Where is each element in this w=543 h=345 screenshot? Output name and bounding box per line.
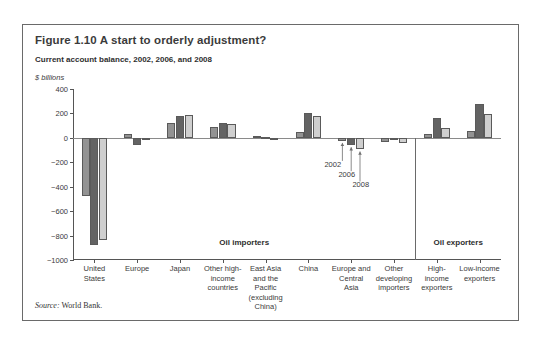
y-tick-mark xyxy=(70,113,74,114)
bar-2006[interactable] xyxy=(475,104,483,138)
bar-group xyxy=(124,89,150,260)
bar-group xyxy=(82,89,108,260)
bar-group xyxy=(467,89,493,260)
bar-2002[interactable] xyxy=(296,132,304,137)
bar-2006[interactable] xyxy=(433,118,441,138)
bar-2002[interactable] xyxy=(167,123,175,138)
x-category-label: High- income exporters xyxy=(415,264,458,293)
bar-2008[interactable] xyxy=(441,128,449,138)
source-value: World Bank. xyxy=(60,301,103,310)
bar-2008[interactable] xyxy=(484,114,492,138)
x-category-label: East Asia and the Pacific (excluding Chi… xyxy=(244,264,287,312)
y-tick-mark xyxy=(70,89,74,90)
x-category-label: Other developing importers xyxy=(373,264,416,293)
bar-2006[interactable] xyxy=(90,138,98,245)
bar-2008[interactable] xyxy=(227,124,235,137)
bar-2002[interactable] xyxy=(338,138,346,141)
chart-plot-area: 4002000−200−400−600−800−1000 Oil importe… xyxy=(73,89,501,260)
y-axis-unit-label: $ billions xyxy=(35,73,64,82)
bar-2002[interactable] xyxy=(253,136,261,138)
y-tick-mark xyxy=(70,260,74,261)
x-category-label: Other high- income countries xyxy=(201,264,244,293)
y-tick-label: −600 xyxy=(34,207,68,216)
y-tick-mark xyxy=(70,162,74,163)
figure-panel: Figure 1.10 A start to orderly adjustmen… xyxy=(22,24,519,321)
y-tick-mark xyxy=(70,187,74,188)
bar-2002[interactable] xyxy=(210,127,218,137)
group-label: Oil exporters xyxy=(434,238,483,247)
bar-2008[interactable] xyxy=(270,138,278,140)
group-divider xyxy=(415,138,416,260)
source-note: Source: World Bank. xyxy=(35,301,102,310)
bar-2006[interactable] xyxy=(304,113,312,138)
source-label: Source: xyxy=(35,301,60,310)
bar-group xyxy=(381,89,407,260)
chart-plot-wrapper: 4002000−200−400−600−800−1000 Oil importe… xyxy=(35,85,505,305)
y-axis-line xyxy=(73,89,74,260)
bar-2006[interactable] xyxy=(219,123,227,138)
bar-2008[interactable] xyxy=(142,138,150,140)
bar-2002[interactable] xyxy=(82,138,90,197)
y-tick-mark xyxy=(70,211,74,212)
bar-2008[interactable] xyxy=(399,138,407,143)
y-tick-label: −1000 xyxy=(34,256,68,265)
y-tick-label: −800 xyxy=(34,231,68,240)
x-category-label: United States xyxy=(73,264,116,283)
bar-2002[interactable] xyxy=(381,138,389,142)
y-tick-label: −200 xyxy=(34,158,68,167)
bar-group xyxy=(338,89,364,260)
bar-2002[interactable] xyxy=(424,134,432,138)
bar-2006[interactable] xyxy=(261,137,269,139)
bar-2006[interactable] xyxy=(347,138,355,145)
bar-2006[interactable] xyxy=(176,116,184,138)
x-category-label: Low-income exporters xyxy=(458,264,501,283)
bar-group xyxy=(296,89,322,260)
bar-2002[interactable] xyxy=(467,131,475,138)
y-tick-label: 400 xyxy=(34,85,68,94)
bar-group xyxy=(424,89,450,260)
bar-group xyxy=(167,89,193,260)
bar-2008[interactable] xyxy=(313,116,321,138)
x-category-label: Europe and Central Asia xyxy=(330,264,373,293)
bar-2006[interactable] xyxy=(390,138,398,140)
y-tick-label: −400 xyxy=(34,182,68,191)
x-category-label: Europe xyxy=(116,264,159,274)
x-category-label: Japan xyxy=(159,264,202,274)
y-tick-mark xyxy=(70,236,74,237)
bar-group xyxy=(210,89,236,260)
y-tick-label: 200 xyxy=(34,109,68,118)
bar-2008[interactable] xyxy=(356,138,364,150)
figure-title: Figure 1.10 A start to orderly adjustmen… xyxy=(35,34,266,46)
bar-2006[interactable] xyxy=(133,138,141,145)
bar-2008[interactable] xyxy=(99,138,107,241)
figure-subtitle: Current account balance, 2002, 2006, and… xyxy=(35,55,212,64)
y-tick-label: 0 xyxy=(34,133,68,142)
x-category-label: China xyxy=(287,264,330,274)
group-label: Oil importers xyxy=(219,238,269,247)
bar-2002[interactable] xyxy=(124,134,132,138)
bar-group xyxy=(253,89,279,260)
bar-2008[interactable] xyxy=(185,115,193,138)
